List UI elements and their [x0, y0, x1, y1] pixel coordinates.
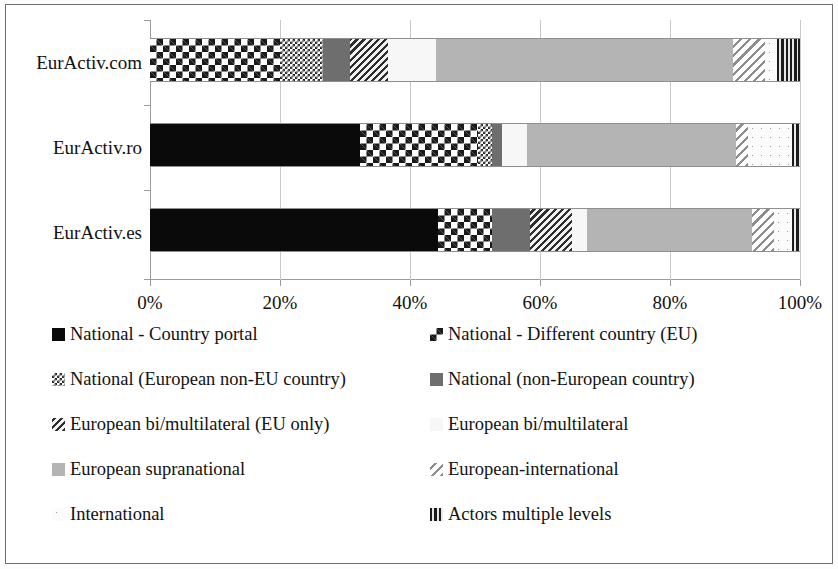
- legend-item[interactable]: National (European non-EU country): [52, 370, 346, 389]
- bar-segment: [527, 124, 736, 166]
- legend-swatch-icon: [430, 373, 443, 386]
- legend-label: National - Different country (EU): [448, 325, 697, 344]
- gridline: [800, 20, 801, 280]
- legend-item[interactable]: National - Different country (EU): [430, 325, 697, 344]
- legend-swatch-icon: [430, 508, 443, 521]
- bar-segment: [492, 124, 502, 166]
- bar-segment: [587, 209, 752, 251]
- bar-euractiv-ro: [150, 123, 800, 167]
- bar-segment: [765, 39, 777, 81]
- legend-label: National (European non-EU country): [70, 370, 346, 389]
- y-axis-label-euractiv-es: EurActiv.es: [10, 223, 142, 242]
- x-axis-tick: [410, 280, 411, 286]
- legend-item[interactable]: European bi/multilateral: [430, 415, 628, 434]
- legend-item[interactable]: European bi/multilateral (EU only): [52, 415, 329, 434]
- legend-item[interactable]: National - Country portal: [52, 325, 258, 344]
- chart-legend: National - Country portalNational - Diff…: [40, 325, 800, 550]
- legend-swatch-icon: [52, 463, 65, 476]
- bar-segment: [502, 124, 527, 166]
- legend-label: European supranational: [70, 460, 245, 479]
- bar-segment: [150, 209, 438, 251]
- x-axis-tick-label: 100%: [778, 292, 822, 314]
- bar-segment: [478, 124, 492, 166]
- legend-item[interactable]: National (non-European country): [430, 370, 695, 389]
- legend-swatch-icon: [52, 508, 65, 521]
- bar-segment: [733, 39, 765, 81]
- x-axis-tick-label: 80%: [653, 292, 688, 314]
- x-axis-tick: [800, 280, 801, 286]
- x-axis-tick: [150, 280, 151, 286]
- y-axis-tick: [144, 105, 150, 106]
- bar-segment: [792, 124, 800, 166]
- legend-label: European-international: [448, 460, 619, 479]
- bar-segment: [572, 209, 587, 251]
- legend-item[interactable]: European-international: [430, 460, 619, 479]
- x-axis-line: [150, 279, 800, 280]
- legend-item[interactable]: International: [52, 505, 165, 524]
- legend-item[interactable]: European supranational: [52, 460, 245, 479]
- bar-segment: [530, 209, 572, 251]
- bar-segment: [360, 124, 478, 166]
- bar-segment: [438, 209, 492, 251]
- bar-segment: [150, 39, 280, 81]
- legend-item[interactable]: Actors multiple levels: [430, 505, 611, 524]
- y-axis-tick: [144, 190, 150, 191]
- bar-euractiv-com: [150, 38, 800, 82]
- x-axis-tick: [670, 280, 671, 286]
- bar-segment: [736, 124, 748, 166]
- x-axis-tick-label: 20%: [263, 292, 298, 314]
- bar-segment: [350, 39, 388, 81]
- legend-label: National - Country portal: [70, 325, 258, 344]
- legend-label: International: [70, 505, 165, 524]
- x-axis-tick-label: 40%: [393, 292, 428, 314]
- legend-swatch-icon: [430, 328, 443, 341]
- legend-swatch-icon: [52, 373, 65, 386]
- y-axis-label-euractiv-com: EurActiv.com: [10, 53, 142, 72]
- bar-euractiv-es: [150, 208, 800, 252]
- legend-swatch-icon: [52, 418, 65, 431]
- y-axis-tick: [144, 20, 150, 21]
- bar-segment: [752, 209, 774, 251]
- x-axis-tick: [280, 280, 281, 286]
- legend-swatch-icon: [52, 328, 65, 341]
- legend-label: National (non-European country): [448, 370, 695, 389]
- legend-swatch-icon: [430, 463, 443, 476]
- plot-area: [150, 20, 800, 280]
- bar-segment: [323, 39, 350, 81]
- y-axis-label-euractiv-ro: EurActiv.ro: [10, 138, 142, 157]
- bar-segment: [492, 209, 530, 251]
- x-axis-tick-label: 60%: [523, 292, 558, 314]
- chart-figure: EurActiv.comEurActiv.roEurActiv.es 0%20%…: [0, 0, 838, 569]
- legend-label: European bi/multilateral (EU only): [70, 415, 329, 434]
- legend-label: European bi/multilateral: [448, 415, 628, 434]
- bar-segment: [388, 39, 436, 81]
- x-axis-tick: [540, 280, 541, 286]
- bar-segment: [280, 39, 323, 81]
- legend-label: Actors multiple levels: [448, 505, 611, 524]
- x-axis-tick-label: 0%: [137, 292, 162, 314]
- legend-swatch-icon: [430, 418, 443, 431]
- bar-segment: [748, 124, 792, 166]
- bar-segment: [774, 209, 792, 251]
- bar-segment: [436, 39, 733, 81]
- y-axis-tick: [144, 279, 150, 280]
- bar-segment: [150, 124, 360, 166]
- bar-segment: [777, 39, 800, 81]
- bar-segment: [792, 209, 800, 251]
